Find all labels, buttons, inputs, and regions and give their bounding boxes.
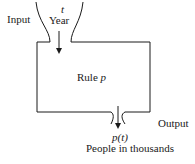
output-funnel-right-wall: [122, 112, 125, 124]
input-funnel-left-wall: [36, 2, 50, 42]
output-label: Output: [158, 117, 189, 129]
machine-rule-label: Rule p: [77, 71, 106, 83]
input-arrow-icon: [56, 48, 62, 54]
machine-rule-prefix: Rule: [77, 71, 101, 83]
output-funnel-left-wall: [111, 112, 113, 124]
input-funnel-right-wall: [71, 2, 83, 42]
input-label: Input: [7, 13, 30, 25]
output-arrow-icon: [115, 123, 121, 129]
machine-rule-name: p: [101, 71, 107, 83]
input-unit: Year: [49, 14, 69, 26]
output-unit: People in thousands: [86, 142, 174, 154]
